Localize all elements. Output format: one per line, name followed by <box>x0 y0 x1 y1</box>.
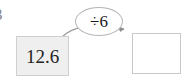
output-answer-box[interactable] <box>132 33 181 74</box>
input-value-label: 12.6 <box>26 47 59 66</box>
input-value-box: 12.6 <box>16 36 69 76</box>
operator-label: ÷6 <box>90 13 108 30</box>
operator-bubble: ÷6 <box>75 7 123 36</box>
function-machine-diagram: 3 12.6 ÷6 <box>0 0 186 78</box>
